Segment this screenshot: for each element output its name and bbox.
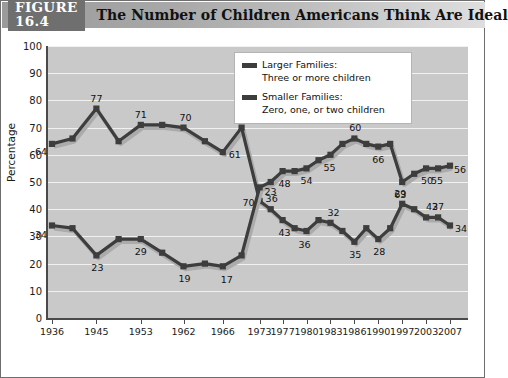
data-point-marker bbox=[303, 165, 309, 171]
x-axis-tick-label: 1986 bbox=[342, 326, 366, 337]
data-point-marker bbox=[351, 135, 357, 141]
x-axis-tick-label: 1990 bbox=[366, 326, 390, 337]
data-value-label: 28 bbox=[373, 246, 385, 257]
legend-swatch-larger-families bbox=[242, 63, 257, 68]
data-point-marker bbox=[93, 252, 99, 258]
data-point-marker bbox=[447, 222, 453, 228]
data-point-marker bbox=[69, 135, 75, 141]
data-value-label: 63 bbox=[394, 189, 406, 200]
data-point-marker bbox=[239, 252, 245, 258]
data-point-marker bbox=[280, 168, 286, 174]
data-point-marker bbox=[327, 220, 333, 226]
x-axis-tick bbox=[402, 318, 403, 324]
data-value-label: 55 bbox=[431, 175, 443, 186]
data-value-label: 77 bbox=[90, 92, 102, 103]
legend-label-line1: Larger Families: bbox=[262, 59, 337, 70]
x-axis-tick-label: 1980 bbox=[294, 326, 318, 337]
x-axis-tick bbox=[354, 318, 355, 324]
data-value-label: 29 bbox=[135, 246, 147, 257]
x-axis-tick-label: 1973 bbox=[247, 326, 271, 337]
x-axis-tick-label: 2007 bbox=[438, 326, 462, 337]
x-axis-tick bbox=[378, 318, 379, 324]
y-axis-tick-label: 80 bbox=[12, 95, 42, 106]
data-point-marker bbox=[292, 225, 298, 231]
y-axis-tick-label: 50 bbox=[12, 177, 42, 188]
data-value-label: 36 bbox=[266, 193, 278, 204]
y-axis-tick-label: 70 bbox=[12, 122, 42, 133]
data-point-marker bbox=[138, 236, 144, 242]
data-point-marker bbox=[159, 122, 165, 128]
y-axis-tick-label: 20 bbox=[12, 258, 42, 269]
data-point-marker bbox=[363, 225, 369, 231]
data-value-label: 71 bbox=[135, 108, 147, 119]
data-point-marker bbox=[202, 138, 208, 144]
y-axis-tick-label: 90 bbox=[12, 68, 42, 79]
data-value-label: 34 bbox=[455, 222, 467, 233]
data-point-marker bbox=[257, 184, 263, 190]
x-axis-tick bbox=[307, 318, 308, 324]
data-point-marker bbox=[268, 179, 274, 185]
y-axis-tick-label: 40 bbox=[12, 204, 42, 215]
data-point-marker bbox=[363, 141, 369, 147]
x-axis-tick-label: 1966 bbox=[211, 326, 235, 337]
x-axis-tick bbox=[426, 318, 427, 324]
data-value-label: 66 bbox=[372, 153, 384, 164]
data-point-marker bbox=[268, 206, 274, 212]
data-point-marker bbox=[220, 149, 226, 155]
data-point-marker bbox=[399, 179, 405, 185]
data-point-marker bbox=[138, 122, 144, 128]
data-value-label: 35 bbox=[349, 248, 361, 259]
legend-label-larger-families: Larger Families: Three or more children bbox=[262, 59, 371, 84]
x-axis-tick bbox=[96, 318, 97, 324]
data-point-marker bbox=[202, 261, 208, 267]
data-value-label: 61 bbox=[229, 149, 241, 160]
data-value-label: 48 bbox=[279, 178, 291, 189]
data-value-label: 55 bbox=[323, 161, 335, 172]
data-point-marker bbox=[411, 206, 417, 212]
data-point-marker bbox=[435, 165, 441, 171]
data-point-marker bbox=[423, 214, 429, 220]
data-value-label: 34 bbox=[35, 228, 47, 239]
x-axis-tick bbox=[260, 318, 261, 324]
data-point-marker bbox=[375, 236, 381, 242]
x-axis-tick-label: 1936 bbox=[40, 326, 64, 337]
chart-legend: Larger Families: Three or more children … bbox=[234, 52, 412, 124]
data-point-marker bbox=[327, 152, 333, 158]
data-point-marker bbox=[49, 141, 55, 147]
data-value-label: 23 bbox=[91, 262, 103, 273]
x-axis-tick-label: 1945 bbox=[84, 326, 108, 337]
legend-item-smaller-families: Smaller Families: Zero, one, or two chil… bbox=[242, 91, 404, 116]
x-axis-tick bbox=[184, 318, 185, 324]
data-point-marker bbox=[49, 222, 55, 228]
data-value-label: 56 bbox=[454, 163, 466, 174]
x-axis-tick bbox=[223, 318, 224, 324]
x-axis-tick-label: 1983 bbox=[318, 326, 342, 337]
data-point-marker bbox=[292, 168, 298, 174]
data-point-marker bbox=[93, 106, 99, 112]
legend-label-line2: Three or more children bbox=[262, 72, 371, 85]
data-value-label: 70 bbox=[243, 197, 255, 208]
x-axis-tick bbox=[141, 318, 142, 324]
data-value-label: 54 bbox=[300, 175, 312, 186]
data-value-label: 17 bbox=[221, 274, 233, 285]
data-point-marker bbox=[387, 141, 393, 147]
x-axis-tick-label: 2003 bbox=[414, 326, 438, 337]
data-point-marker bbox=[447, 163, 453, 169]
figure-title: The Number of Children Americans Think A… bbox=[97, 7, 508, 23]
x-axis-tick-label: 1953 bbox=[129, 326, 153, 337]
data-point-marker bbox=[423, 165, 429, 171]
x-axis-tick bbox=[283, 318, 284, 324]
data-value-label: 36 bbox=[298, 238, 310, 249]
data-point-marker bbox=[220, 263, 226, 269]
data-point-marker bbox=[69, 225, 75, 231]
y-axis-tick-label: 10 bbox=[12, 285, 42, 296]
data-point-marker bbox=[351, 239, 357, 245]
data-point-marker bbox=[399, 201, 405, 207]
legend-label-smaller-families: Smaller Families: Zero, one, or two chil… bbox=[262, 91, 385, 116]
data-point-marker bbox=[315, 157, 321, 163]
data-point-marker bbox=[180, 125, 186, 131]
x-axis-tick-label: 1977 bbox=[271, 326, 295, 337]
data-point-marker bbox=[280, 217, 286, 223]
data-point-marker bbox=[116, 138, 122, 144]
